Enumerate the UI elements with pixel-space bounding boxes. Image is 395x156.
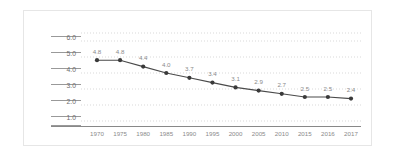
- data-point-label: 3.7: [185, 65, 194, 72]
- data-point-marker: [141, 65, 145, 69]
- data-point-label: 4.0: [162, 61, 171, 68]
- x-axis-tick-label: 2015: [298, 130, 312, 137]
- x-axis-tick-label: 2016: [321, 130, 335, 137]
- data-point-marker: [164, 71, 168, 75]
- x-axis-tick-label: 1970: [90, 130, 104, 137]
- grid-lines: [81, 33, 361, 121]
- x-axis-tick-label: 1995: [206, 130, 220, 137]
- data-point-label: 2.4: [347, 86, 356, 93]
- data-point-marker: [303, 95, 307, 99]
- data-point-label: 2.9: [254, 78, 263, 85]
- data-point-marker: [326, 95, 330, 99]
- y-axis-tick-labels: 1.02.03.04.05.06.0: [67, 34, 77, 121]
- series-polyline: [97, 60, 351, 98]
- data-point-labels: 4.84.84.44.03.73.43.12.92.72.52.52.4: [93, 48, 356, 93]
- data-point-marker: [210, 81, 214, 85]
- y-axis-tick-label: 3.0: [67, 82, 77, 89]
- data-point-label: 4.8: [93, 48, 102, 55]
- y-axis-tick-label: 5.0: [67, 50, 77, 57]
- data-point-marker: [187, 76, 191, 80]
- data-point-label: 2.5: [301, 85, 310, 92]
- x-axis-tick-label: 1985: [159, 130, 173, 137]
- y-axis-tick-label: 1.0: [67, 114, 77, 121]
- y-axis-tick-label: 6.0: [67, 34, 77, 41]
- data-point-marker: [349, 97, 353, 101]
- x-axis-tick-label: 2005: [252, 130, 266, 137]
- data-point-marker: [257, 89, 261, 93]
- data-point-marker: [118, 58, 122, 62]
- data-point-label: 3.1: [231, 75, 240, 82]
- chart-card: 1.02.03.04.05.06.0 4.84.84.44.03.73.43.1…: [23, 10, 372, 146]
- y-axis-tick-label: 4.0: [67, 66, 77, 73]
- x-axis-tick-label: 1975: [113, 130, 127, 137]
- x-axis-tick-label: 2017: [344, 130, 358, 137]
- line-chart: 1.02.03.04.05.06.0 4.84.84.44.03.73.43.1…: [24, 11, 373, 147]
- data-point-marker: [95, 58, 99, 62]
- x-axis-tick-label: 1980: [136, 130, 150, 137]
- x-axis-tick-label: 1990: [182, 130, 196, 137]
- data-point-label: 3.4: [208, 70, 217, 77]
- y-axis-tick-label: 2.0: [67, 98, 77, 105]
- data-point-label: 4.4: [139, 54, 148, 61]
- data-point-marker: [280, 92, 284, 96]
- x-axis-tick-labels: 1970197519801985199019952000200520102015…: [90, 130, 358, 137]
- data-point-label: 4.8: [116, 48, 125, 55]
- chart-plot-area: 1.02.03.04.05.06.0 4.84.84.44.03.73.43.1…: [24, 11, 373, 147]
- x-axis-tick-label: 2000: [229, 130, 243, 137]
- x-axis-tick-label: 2010: [275, 130, 289, 137]
- data-point-label: 2.5: [324, 85, 333, 92]
- data-point-marker: [233, 85, 237, 89]
- data-point-label: 2.7: [277, 81, 286, 88]
- data-series-line: [97, 60, 351, 98]
